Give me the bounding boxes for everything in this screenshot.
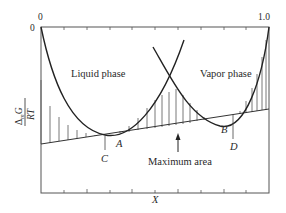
point-d-label: D [229,141,238,152]
top-left-tick-label: 0 [38,12,43,22]
vapor-phase-label: Vapor phase [200,68,252,79]
y-axis-label: ΔmG RT [14,98,36,126]
diagram-canvas: 0 0 1.0 Liquid phase Vapor phase A B C D… [0,0,286,213]
left-top-tick-label: 0 [30,23,35,33]
arrow-up-icon [176,133,181,152]
y-label-denominator: RT [26,108,36,121]
point-a-label: A [115,138,123,149]
point-b-label: B [221,124,228,135]
liquid-phase-label: Liquid phase [71,68,126,79]
y-label-var: G [14,107,24,114]
top-right-tick-label: 1.0 [258,12,270,22]
gibbs-energy-diagram: 0 0 1.0 Liquid phase Vapor phase A B C D… [0,0,286,213]
max-area-label: Maximum area [148,156,212,167]
liquid-phase-curve [41,27,184,136]
hatch-lines [41,40,266,144]
svg-text:ΔmG: ΔmG [14,107,25,125]
bottom-axis-ticks [64,189,246,193]
x-axis-label: X [151,194,159,205]
point-c-label: C [101,153,109,164]
